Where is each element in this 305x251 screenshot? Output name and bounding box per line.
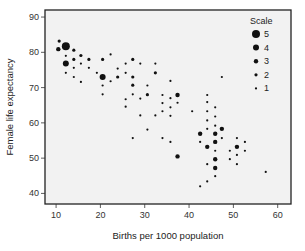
data-point bbox=[146, 84, 148, 86]
data-point bbox=[131, 58, 134, 61]
data-point bbox=[206, 180, 208, 182]
data-point bbox=[175, 93, 179, 97]
data-point bbox=[65, 72, 67, 74]
x-tick-label: 60 bbox=[273, 210, 283, 220]
data-point bbox=[236, 137, 238, 139]
legend-label: 5 bbox=[264, 29, 269, 39]
x-axis-label: Births per 1000 population bbox=[113, 230, 224, 241]
y-tick-label: 70 bbox=[29, 83, 39, 93]
legend-marker bbox=[255, 87, 257, 89]
data-point bbox=[206, 163, 208, 165]
legend-label: 4 bbox=[264, 43, 269, 53]
data-point bbox=[117, 67, 119, 69]
data-point bbox=[154, 63, 156, 65]
data-point bbox=[199, 185, 201, 187]
data-point bbox=[87, 58, 90, 61]
data-point bbox=[214, 150, 216, 152]
data-point bbox=[161, 94, 163, 96]
data-point bbox=[206, 119, 208, 121]
data-point bbox=[191, 110, 193, 112]
x-tick-label: 20 bbox=[95, 210, 105, 220]
data-point bbox=[214, 115, 216, 117]
data-point bbox=[265, 171, 267, 173]
data-point bbox=[244, 141, 246, 143]
data-point bbox=[161, 102, 163, 104]
data-point bbox=[100, 74, 106, 80]
data-point bbox=[213, 140, 217, 144]
data-point bbox=[72, 49, 75, 52]
legend-marker bbox=[254, 59, 258, 63]
x-tick-label: 30 bbox=[140, 210, 150, 220]
data-point bbox=[161, 137, 163, 139]
data-point bbox=[110, 80, 112, 82]
data-point bbox=[116, 75, 119, 78]
data-point bbox=[88, 67, 90, 69]
data-point bbox=[132, 137, 134, 139]
data-point bbox=[139, 63, 141, 65]
data-point bbox=[169, 141, 171, 143]
data-point bbox=[169, 80, 171, 82]
data-point bbox=[110, 53, 112, 55]
data-point bbox=[229, 150, 231, 152]
data-point bbox=[80, 63, 82, 65]
data-point bbox=[236, 154, 238, 156]
data-point bbox=[169, 115, 171, 117]
data-point bbox=[244, 150, 246, 152]
data-point bbox=[206, 94, 208, 96]
data-point bbox=[214, 106, 216, 108]
data-point bbox=[96, 72, 98, 74]
data-point bbox=[101, 58, 104, 61]
data-point bbox=[206, 128, 208, 130]
y-axis: 405060708090 bbox=[29, 12, 45, 198]
data-point bbox=[161, 110, 163, 112]
data-point bbox=[213, 157, 217, 161]
data-point bbox=[125, 106, 127, 108]
legend-title: Scale bbox=[250, 16, 273, 26]
data-point bbox=[221, 76, 223, 78]
data-point bbox=[132, 93, 134, 95]
data-point bbox=[154, 71, 157, 74]
x-tick-label: 40 bbox=[184, 210, 194, 220]
data-point bbox=[220, 127, 224, 131]
data-point bbox=[146, 93, 149, 96]
x-tick-label: 50 bbox=[228, 210, 238, 220]
y-tick-label: 50 bbox=[29, 153, 39, 163]
x-axis: 102030405060 bbox=[51, 204, 283, 220]
legend-marker bbox=[253, 45, 259, 51]
scatter-chart: 102030405060 405060708090 Births per 100… bbox=[0, 0, 305, 251]
data-point bbox=[154, 114, 156, 116]
data-point bbox=[102, 93, 104, 95]
data-point bbox=[229, 158, 231, 160]
data-point bbox=[169, 106, 171, 108]
y-tick-label: 90 bbox=[29, 12, 39, 22]
data-point bbox=[131, 75, 134, 78]
legend-label: 1 bbox=[264, 83, 269, 93]
data-point bbox=[79, 54, 82, 57]
data-point bbox=[58, 39, 61, 42]
data-point bbox=[213, 132, 217, 136]
data-point bbox=[169, 97, 171, 99]
data-point bbox=[221, 137, 223, 139]
data-point bbox=[139, 114, 141, 116]
data-point bbox=[73, 76, 75, 78]
data-point bbox=[206, 101, 208, 103]
data-point bbox=[125, 72, 127, 74]
y-tick-label: 60 bbox=[29, 118, 39, 128]
data-point bbox=[63, 61, 69, 67]
data-point bbox=[213, 166, 217, 170]
data-point bbox=[175, 154, 179, 158]
data-point bbox=[56, 47, 60, 51]
data-point bbox=[146, 128, 148, 130]
legend-label: 2 bbox=[264, 70, 269, 80]
data-point bbox=[214, 125, 216, 127]
data-point bbox=[73, 67, 75, 69]
data-point bbox=[125, 98, 127, 100]
data-point bbox=[235, 145, 239, 149]
data-point bbox=[236, 163, 238, 165]
plot-area bbox=[45, 10, 291, 204]
y-tick-label: 40 bbox=[29, 188, 39, 198]
data-point bbox=[65, 55, 67, 57]
data-point bbox=[72, 58, 75, 61]
data-point bbox=[198, 132, 202, 136]
data-point bbox=[206, 110, 208, 112]
